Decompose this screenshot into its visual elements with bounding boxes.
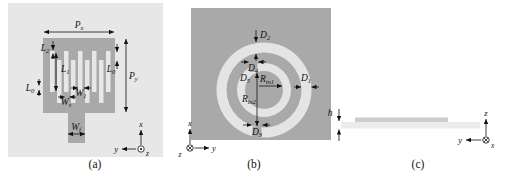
axis-y-label: y	[113, 144, 118, 154]
axis-y-label: y	[211, 143, 216, 153]
meander-slot	[92, 51, 97, 92]
panel-b-caption: (b)	[247, 158, 261, 171]
panel-c-caption: (c)	[412, 158, 425, 171]
axis-z-label: z	[178, 150, 182, 159]
panel-a-caption: (a)	[89, 158, 102, 171]
z-out-of-plane-dot	[140, 148, 142, 150]
axis-y-label: y	[457, 135, 462, 145]
axis-x-label: x	[490, 141, 495, 150]
axis-panel-c: z y x	[457, 108, 495, 150]
axis-x-label: x	[138, 119, 143, 129]
antenna-geometry-figure: Px Py L2 L1 L0 L0 W1 Ws Wf x y z (a)	[0, 0, 514, 176]
axis-z-label: z	[483, 108, 488, 118]
axis-z-label: z	[145, 149, 149, 158]
figure-canvas: Px Py L2 L1 L0 L0 W1 Ws Wf x y z (a)	[0, 0, 514, 176]
panel-b: D2 D4 D5 Rin1 Rin2 D1 D3 x y z (b)	[178, 8, 331, 171]
patch-layer-side-view	[355, 118, 448, 123]
meander-slot	[78, 51, 83, 92]
substrate-side-view	[341, 122, 480, 129]
label-h: h	[328, 108, 333, 118]
axis-x-label: x	[187, 118, 192, 128]
meander-slot	[99, 60, 104, 103]
panel-c: h z y x (c)	[328, 108, 495, 171]
panel-a: Px Py L2 L1 L0 L0 W1 Ws Wf x y z (a)	[8, 3, 163, 171]
meander-slot	[50, 51, 55, 92]
